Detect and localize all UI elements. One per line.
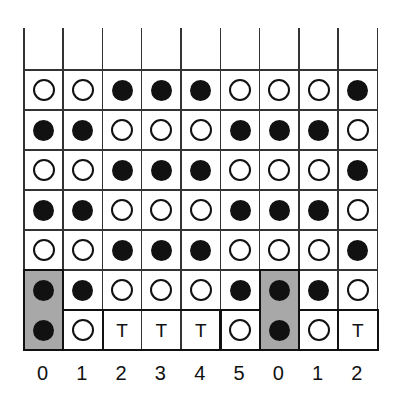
open-circle-icon <box>268 79 290 101</box>
grid-cell <box>103 190 142 230</box>
open-circle-icon <box>190 119 212 141</box>
grid-cell <box>181 190 220 230</box>
grid-cell <box>221 70 260 110</box>
grid-cell <box>63 70 102 110</box>
open-circle-icon <box>111 119 133 141</box>
column-label: 4 <box>180 362 219 385</box>
grid-cell <box>260 270 299 310</box>
filled-circle-icon <box>33 120 54 141</box>
grid-cell: T <box>338 310 377 350</box>
filled-circle-icon <box>33 280 54 301</box>
column-label: 1 <box>298 362 337 385</box>
grid-cell <box>142 270 181 310</box>
grid-cell <box>24 190 63 230</box>
filled-circle-icon <box>230 200 251 221</box>
column-label: 2 <box>337 362 376 385</box>
filled-circle-icon <box>190 80 211 101</box>
filled-circle-icon <box>269 320 290 341</box>
grid-cell <box>103 270 142 310</box>
open-circle-icon <box>33 239 55 261</box>
open-circle-icon <box>150 279 172 301</box>
grid-cell <box>221 190 260 230</box>
open-circle-icon <box>72 79 94 101</box>
grid-cell <box>260 310 299 350</box>
filled-circle-icon <box>33 320 54 341</box>
grid-cell <box>181 270 220 310</box>
grid-cell <box>142 110 181 150</box>
grid-cell <box>260 230 299 270</box>
grid-cell <box>221 230 260 270</box>
grid-cell <box>63 310 102 350</box>
grid-cell <box>338 70 377 110</box>
open-circle-icon <box>33 79 55 101</box>
column-label: 3 <box>141 362 180 385</box>
grid-cell <box>338 270 377 310</box>
filled-circle-icon <box>230 120 251 141</box>
t-symbol: T <box>116 321 128 340</box>
grid-cell <box>299 190 338 230</box>
grid-cell <box>221 110 260 150</box>
grid-cell <box>181 110 220 150</box>
t-symbol: T <box>156 321 168 340</box>
grid-cell <box>299 230 338 270</box>
filled-circle-icon <box>347 80 368 101</box>
filled-circle-icon <box>151 160 172 181</box>
open-circle-icon <box>268 159 290 181</box>
grid-cell <box>142 70 181 110</box>
grid-cell <box>299 150 338 190</box>
grid-cell <box>24 110 63 150</box>
grid-cell <box>260 190 299 230</box>
open-circle-icon <box>229 319 251 341</box>
grid-cell <box>142 150 181 190</box>
grid-cell <box>338 230 377 270</box>
open-circle-icon <box>308 79 330 101</box>
grid-cell <box>338 110 377 150</box>
grid-cell <box>181 230 220 270</box>
open-circle-icon <box>229 79 251 101</box>
grid-cell <box>221 270 260 310</box>
grid-cell <box>299 110 338 150</box>
filled-circle-icon <box>269 120 290 141</box>
filled-circle-icon <box>308 120 329 141</box>
open-circle-icon <box>347 199 369 221</box>
column-label: 5 <box>220 362 259 385</box>
grid-cell <box>63 150 102 190</box>
filled-circle-icon <box>151 80 172 101</box>
grid-cell <box>221 150 260 190</box>
filled-circle-icon <box>347 160 368 181</box>
filled-circle-icon <box>347 240 368 261</box>
filled-circle-icon <box>72 280 93 301</box>
open-circle-icon <box>33 159 55 181</box>
column-label: 1 <box>62 362 101 385</box>
grid-cell <box>299 70 338 110</box>
open-circle-icon <box>308 159 330 181</box>
grid-cell: T <box>142 310 181 350</box>
open-circle-icon <box>229 239 251 261</box>
grid-cell <box>181 70 220 110</box>
open-circle-icon <box>190 279 212 301</box>
grid-cell <box>63 190 102 230</box>
open-circle-icon <box>72 319 94 341</box>
open-circle-icon <box>308 319 330 341</box>
column-label: 2 <box>102 362 141 385</box>
column-label: 0 <box>259 362 298 385</box>
grid-cell <box>63 230 102 270</box>
filled-circle-icon <box>269 280 290 301</box>
filled-circle-icon <box>72 120 93 141</box>
grid-cell <box>260 150 299 190</box>
grid-cell <box>221 310 260 350</box>
open-circle-icon <box>190 199 212 221</box>
column-label: 0 <box>23 362 62 385</box>
filled-circle-icon <box>308 280 329 301</box>
grid-cell <box>103 70 142 110</box>
open-circle-icon <box>308 239 330 261</box>
grid-cell <box>338 190 377 230</box>
grid-cell <box>24 270 63 310</box>
open-circle-icon <box>268 239 290 261</box>
grid-cell <box>24 150 63 190</box>
grid-cell <box>260 70 299 110</box>
filled-circle-icon <box>33 200 54 221</box>
grid-cell <box>63 110 102 150</box>
grid-cell <box>103 150 142 190</box>
open-circle-icon <box>111 279 133 301</box>
